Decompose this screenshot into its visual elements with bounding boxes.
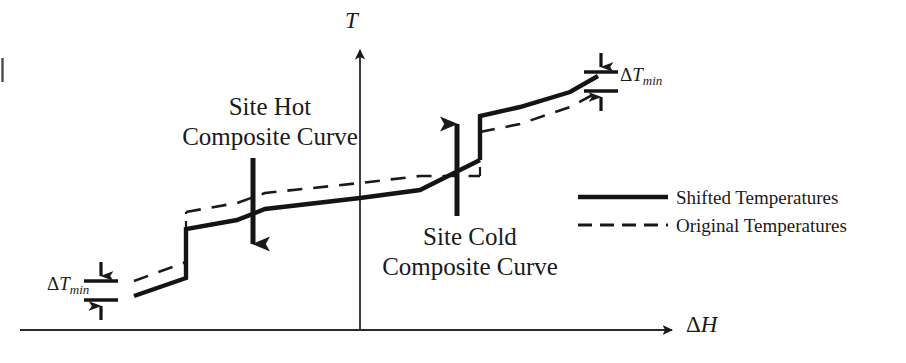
delta-right-var: T — [632, 64, 643, 85]
delta-right-symbol: Δ — [620, 64, 632, 85]
legend-swatches — [578, 197, 668, 225]
delta-left-symbol: Δ — [47, 273, 59, 294]
site-cold-composite-curve — [480, 76, 598, 176]
legend-label-original-temperatures: Original Temperatures — [676, 215, 847, 237]
x-axis-label-delta: Δ — [686, 312, 701, 337]
annotation-site-hot-composite-curve: Site Hot Composite Curve — [155, 92, 385, 152]
delta-left-subscript: min — [70, 282, 90, 297]
annotation-hot-line2: Composite Curve — [155, 122, 385, 152]
annotation-cold-line2: Composite Curve — [355, 252, 585, 282]
delta-right-subscript: min — [643, 73, 663, 88]
annotation-site-cold-composite-curve: Site Cold Composite Curve — [355, 222, 585, 282]
delta-t-min-left-label: ΔTmin — [47, 273, 89, 295]
legend-label-shifted-temperatures: Shifted Temperatures — [676, 187, 838, 209]
composite-curve-diagram — [0, 0, 906, 363]
annotation-cold-line1: Site Cold — [355, 222, 585, 252]
annotation-hot-line1: Site Hot — [155, 92, 385, 122]
delta-left-var: T — [59, 273, 70, 294]
x-axis-label-var: H — [701, 312, 718, 337]
y-axis-label: T — [345, 8, 358, 34]
x-axis-label: ΔH — [686, 312, 717, 338]
delta-t-min-right-label: ΔTmin — [620, 64, 662, 86]
figure-canvas: Site Hot Composite Curve Site Cold Compo… — [0, 0, 906, 363]
